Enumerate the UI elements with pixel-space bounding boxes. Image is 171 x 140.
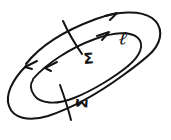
- label-sigma: Σ: [83, 51, 94, 67]
- figure-canvas: Σ Σ̃ ℓ: [0, 0, 171, 140]
- label-sigma-tilde: Σ̃: [75, 98, 91, 109]
- outer-loop-right-turn: [8, 52, 152, 119]
- loop-diagram-drawing: [0, 0, 171, 140]
- arrow-head-outer-top: [105, 13, 117, 20]
